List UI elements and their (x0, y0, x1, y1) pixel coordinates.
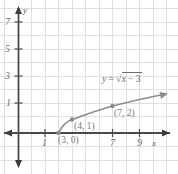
x-tick-label-7: 7 (110, 138, 115, 148)
y-axis (15, 6, 22, 168)
y-tick-label-5: 5 (5, 44, 10, 54)
y-tick-label-1: 1 (6, 98, 11, 108)
x-axis-label: x (152, 139, 156, 148)
x-tick-label-9: 9 (137, 138, 142, 148)
radicand-variable: x (122, 73, 126, 84)
point-label-3-0: (3, 0) (58, 136, 79, 146)
y-axis-label: y (23, 6, 27, 15)
y-tick-label-7: 7 (5, 17, 10, 27)
x-tick-label-1: 1 (42, 138, 47, 148)
graph-figure: 7 5 3 1 1 7 9 y x (3, 0) (4, 1) (7, 2) y… (0, 0, 178, 174)
radicand-operator: − (128, 73, 134, 84)
equation-lhs: y (102, 73, 106, 84)
y-tick-label-3: 3 (5, 71, 10, 81)
radicand-number: 3 (136, 73, 141, 84)
equation-equals: = (108, 73, 114, 84)
function-equation-label: y=√x−3 (102, 74, 142, 84)
radicand-group: x−3 (122, 72, 142, 84)
point-label-4-1: (4, 1) (74, 122, 95, 132)
point-label-7-2: (7, 2) (114, 109, 135, 119)
